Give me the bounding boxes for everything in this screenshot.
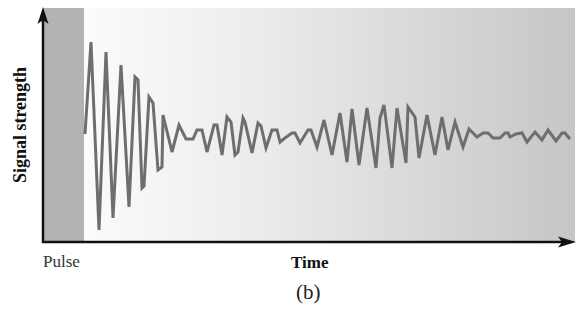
y-axis-label: Signal strength — [10, 67, 31, 183]
pulse-region — [43, 8, 84, 242]
pulse-label: Pulse — [43, 252, 80, 272]
x-axis-label: Time — [291, 253, 328, 273]
plot-background — [84, 8, 575, 242]
figure-caption: (b) — [296, 280, 321, 305]
signal-figure: Signal strength Pulse Time (b) — [0, 0, 581, 320]
